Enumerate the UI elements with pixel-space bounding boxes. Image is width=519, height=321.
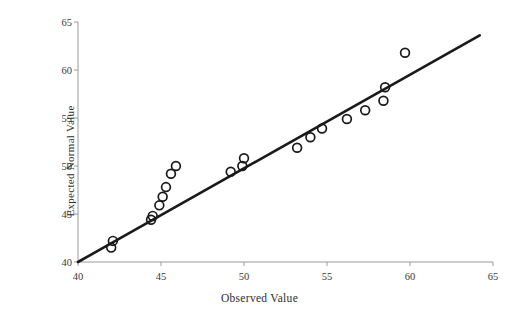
x-tick-label: 55 [322,271,333,282]
y-tick-label: 60 [48,65,72,76]
x-tick-label: 60 [405,271,416,282]
x-tick-label: 50 [239,271,250,282]
qq-plot-figure: 404550556065 404550556065 Expected Norma… [0,0,519,321]
x-tick-label: 40 [73,271,84,282]
x-tick-label: 45 [156,271,167,282]
x-tick-label: 65 [488,271,499,282]
y-tick-label: 65 [48,17,72,28]
y-tick-label: 40 [48,257,72,268]
y-axis-title: Expected Normal Value [64,105,76,216]
x-axis-title: Observed Value [0,292,519,304]
